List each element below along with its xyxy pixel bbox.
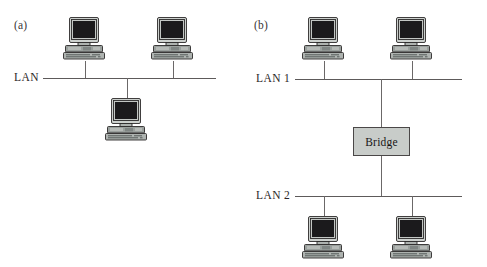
workstation-a-top-left-icon [62,16,108,61]
lan1-bus-line [295,79,462,80]
workstation-b-bottom-right-icon [389,215,435,260]
workstation-b-top-left-icon [301,16,347,61]
bridge-node: Bridge [353,127,410,156]
workstation-a-bottom-icon [104,97,150,142]
workstation-a-top-right-icon [150,16,196,61]
workstation-b-bottom-left-icon [301,215,347,260]
drop-stem-b-top-right [412,61,413,79]
drop-stem-b-bottom-left [324,196,325,216]
lan2-bus-line [295,196,462,197]
drop-stem-b-top-left [324,61,325,79]
lan2-label: LAN 2 [256,189,290,201]
drop-stem-a-bottom [127,78,128,98]
network-diagram-figure: (a) LAN [0,0,487,267]
lan-label: LAN [14,71,39,83]
workstation-b-top-right-icon [389,16,435,61]
lan1-label: LAN 1 [256,72,290,84]
panel-a-caption: (a) [14,19,27,31]
bridge-uplink-line [381,79,382,127]
lan-bus-line [43,78,216,79]
bridge-label: Bridge [365,136,398,148]
drop-stem-a-top-left [85,61,86,78]
bridge-downlink-line [381,156,382,196]
drop-stem-a-top-right [173,61,174,78]
drop-stem-b-bottom-right [412,196,413,216]
panel-b-caption: (b) [254,19,268,31]
